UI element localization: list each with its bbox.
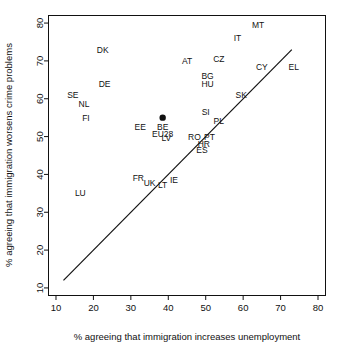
x-tick-label: 80 [313,302,324,313]
x-tick-label: 10 [51,302,62,313]
x-tick-label: 30 [126,302,137,313]
data-point-label: SK [236,90,248,100]
data-point-label: FI [82,113,90,123]
data-point-label: CZ [213,54,224,64]
data-point-label: DK [97,45,109,55]
y-tick-label: 70 [34,56,45,67]
x-tick-label: 50 [200,302,211,313]
data-point-label: DE [99,79,111,89]
data-point-label: LU [75,188,86,198]
data-point-label: SI [202,107,210,117]
data-point-label: ES [196,145,208,155]
data-point-label: SE [67,90,79,100]
data-point-label: EE [135,122,147,132]
x-axis-title: % agreeing that immigration increases un… [74,331,301,342]
data-point-label: IT [234,33,242,43]
y-tick-label: 10 [34,283,45,294]
data-point-label: CY [256,62,268,72]
y-tick-label: 50 [34,131,45,142]
plot-area: 1020304050607080 1020304050607080 EU28MT… [0,0,341,348]
y-tick-label: 80 [34,18,45,29]
data-point-label: NL [79,99,90,109]
data-point-label: HU [201,79,213,89]
y-tick-label: 40 [34,169,45,180]
y-axis-title: % agreeing that immigration worsens crim… [3,43,14,267]
y-tick-label: 30 [34,207,45,218]
x-tick-label: 60 [238,302,249,313]
data-point-label: UK [144,178,156,188]
x-tick-label: 70 [275,302,286,313]
data-point-label: LV [162,133,172,143]
y-tick-label: 20 [34,245,45,256]
data-point-label: EL [288,62,299,72]
data-point-label: IE [170,175,178,185]
data-point-marker [159,114,165,120]
data-point-label: BE [157,122,169,132]
scatter-chart: 1020304050607080 1020304050607080 EU28MT… [0,0,341,348]
x-tick-label: 20 [88,302,99,313]
data-point-label: FR [133,173,144,183]
y-tick-label: 60 [34,93,45,104]
data-point-label: MT [252,20,264,30]
data-point-label: PL [214,116,225,126]
x-tick-label: 40 [163,302,174,313]
data-point-label: AT [182,56,192,66]
data-point-label: LT [158,180,167,190]
